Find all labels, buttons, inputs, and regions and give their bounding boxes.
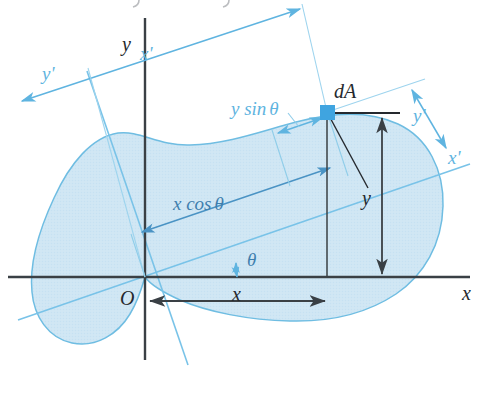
x-cos-theta-label: x cosθ: [173, 194, 224, 213]
x-cos-theta-text: x cos: [173, 193, 212, 214]
origin-label: O: [120, 288, 134, 308]
top-cropped-glyphs: [133, 0, 229, 7]
x-prime-extension-line: [302, 4, 327, 112]
y-sin-theta-angle-symbol: θ: [269, 98, 278, 119]
x-dimension-label: x: [232, 284, 241, 304]
x-cos-theta-angle-symbol: θ: [215, 193, 224, 214]
x-axis-label: x: [462, 283, 471, 303]
x-prime-axis-label: x': [448, 148, 461, 167]
x-prime-dimension-label: x': [140, 44, 153, 63]
theta-angle-label: θ: [247, 250, 256, 269]
y-prime-dimension-label: y': [413, 106, 426, 125]
y-sin-theta-label: y sinθ: [231, 99, 279, 118]
area-moment-rotated-axes-figure: y x O y' x' x' y' dA x y x cosθ y sinθ θ: [0, 0, 495, 395]
y-sin-theta-text: y sin: [231, 98, 266, 119]
element-label: dA: [334, 81, 356, 101]
figure-canvas: [0, 0, 495, 395]
y-axis-label: y: [122, 34, 131, 54]
x-prime-dimension-line: [22, 9, 300, 101]
y-dimension-label: y: [362, 188, 371, 208]
element-marker-square: [320, 105, 335, 120]
y-prime-axis-label: y': [42, 64, 55, 83]
